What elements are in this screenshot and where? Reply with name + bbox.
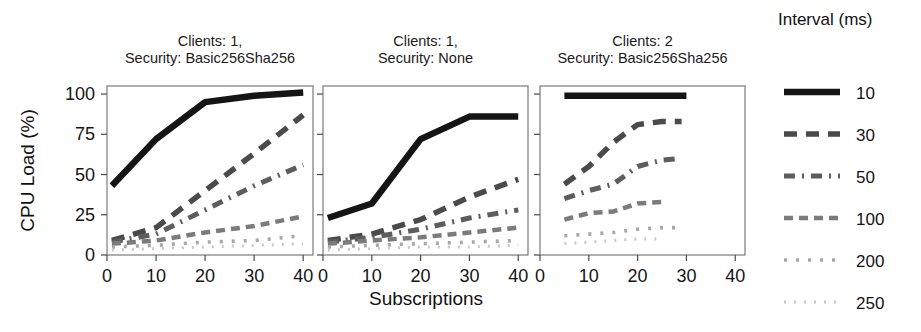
y-tick-label: 0 [85, 245, 95, 265]
x-tick-label: 20 [195, 266, 215, 286]
panel-1: Clients: 1,Security: Basic256Sha25601020… [65, 33, 313, 286]
legend-item-50[interactable]: 50 [784, 168, 875, 187]
legend-item-200[interactable]: 200 [784, 252, 884, 271]
x-tick-label: 20 [411, 266, 431, 286]
legend-item-30[interactable]: 30 [784, 126, 875, 145]
x-tick-label: 30 [244, 266, 264, 286]
x-tick-label: 20 [628, 266, 648, 286]
panel-frame [540, 86, 745, 255]
x-tick-label: 40 [508, 266, 528, 286]
panel-title-line1: Clients: 2 [612, 33, 672, 49]
x-tick-label: 10 [146, 266, 166, 286]
legend-item-250[interactable]: 250 [784, 294, 884, 313]
x-tick-label: 0 [102, 266, 112, 286]
legend-label-10: 10 [856, 84, 875, 103]
y-tick-label: 25 [75, 205, 95, 225]
legend-title: Interval (ms) [778, 10, 872, 29]
legend-label-100: 100 [856, 210, 884, 229]
y-axis-title: CPU Load (%) [17, 109, 38, 232]
x-tick-label: 30 [459, 266, 479, 286]
x-tick-label: 0 [535, 266, 545, 286]
legend: Interval (ms)103050100200250 [778, 10, 884, 313]
legend-label-50: 50 [856, 168, 875, 187]
x-tick-label: 40 [725, 266, 745, 286]
panel-frame [107, 86, 313, 255]
panel-title-line2: Security: Basic256Sha256 [125, 50, 295, 66]
legend-label-250: 250 [856, 294, 884, 313]
panel-title-line1: Clients: 1, [393, 33, 457, 49]
x-tick-label: 10 [579, 266, 599, 286]
panel-2: Clients: 1,Security: None010203040 [317, 33, 528, 286]
legend-label-30: 30 [856, 126, 875, 145]
x-tick-label: 30 [676, 266, 696, 286]
panel-title-line2: Security: None [378, 50, 473, 66]
legend-label-200: 200 [856, 252, 884, 271]
panel-title-line1: Clients: 1, [178, 33, 242, 49]
legend-item-10[interactable]: 10 [784, 84, 875, 103]
legend-item-100[interactable]: 100 [784, 210, 884, 229]
y-tick-label: 50 [75, 165, 95, 185]
x-tick-label: 0 [318, 266, 328, 286]
y-tick-label: 75 [75, 124, 95, 144]
cpu-load-figure: Clients: 1,Security: Basic256Sha25601020… [0, 0, 921, 332]
chart-svg: Clients: 1,Security: Basic256Sha25601020… [0, 0, 921, 332]
x-tick-label: 10 [362, 266, 382, 286]
x-axis-title: Subscriptions [369, 288, 483, 309]
panel-3: Clients: 2Security: Basic256Sha256010203… [534, 33, 745, 286]
panel-title-line2: Security: Basic256Sha256 [557, 50, 727, 66]
y-tick-label: 100 [65, 84, 95, 104]
x-tick-label: 40 [293, 266, 313, 286]
